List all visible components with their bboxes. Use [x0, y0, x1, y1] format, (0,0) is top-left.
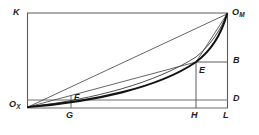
- label-b: B: [233, 56, 240, 65]
- label-f: F: [74, 93, 80, 102]
- diagram-canvas: [0, 0, 259, 135]
- label-om: OM: [232, 8, 245, 17]
- label-om-subscript: M: [239, 11, 245, 18]
- label-h: H: [191, 111, 198, 120]
- geometric-diagram-figure: K OM OX B D E F G H L: [0, 0, 259, 135]
- label-d: D: [233, 94, 240, 103]
- label-k: K: [13, 8, 20, 17]
- label-ox: OX: [9, 100, 21, 109]
- label-g: G: [66, 111, 73, 120]
- label-ox-subscript: X: [16, 103, 20, 110]
- label-l: L: [223, 111, 229, 120]
- label-e: E: [199, 66, 205, 75]
